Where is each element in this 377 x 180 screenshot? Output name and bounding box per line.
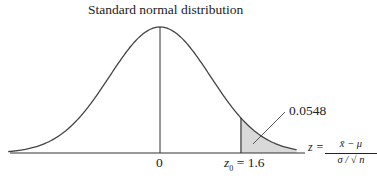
axis-label-formula: z = x̄ − μ σ / √ n xyxy=(308,140,324,155)
annotation-leader-line xyxy=(253,112,285,144)
tick-label-zero: 0 xyxy=(156,155,163,171)
formula-numerator: x̄ − μ xyxy=(325,138,377,149)
tick-label-z0: z0 = 1.6 xyxy=(224,155,265,173)
axis-lhs: z = xyxy=(308,140,324,154)
area-annotation: 0.0548 xyxy=(289,103,326,119)
formula-denominator: σ / √ n xyxy=(325,153,377,165)
z0-value: = 1.6 xyxy=(233,155,264,170)
